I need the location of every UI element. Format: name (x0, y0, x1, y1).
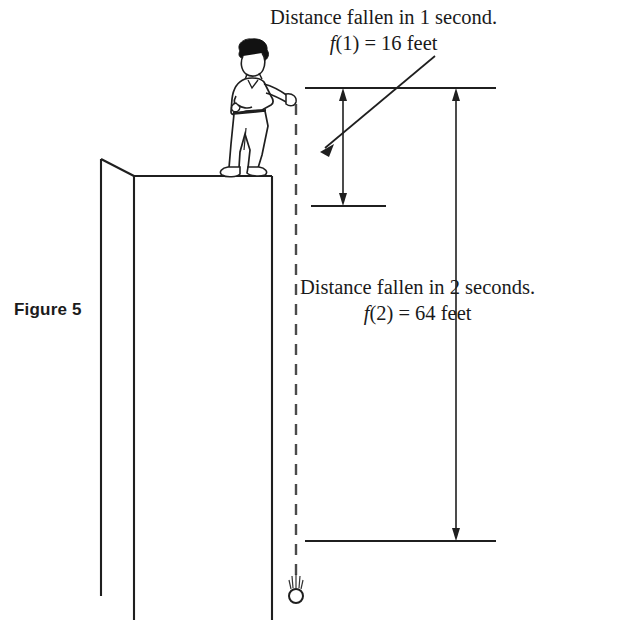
caption-1-equation: (1) = 16 feet (335, 32, 437, 54)
dimension-16-feet (339, 88, 347, 206)
leader-arrow-to-16-feet (320, 56, 435, 157)
dimension-64-arrow-up (452, 88, 460, 101)
hand-right (286, 94, 296, 106)
caption-2-equation: (2) = 64 feet (369, 302, 471, 324)
shoe-left (220, 167, 240, 177)
dimension-64-arrow-down (452, 528, 460, 541)
figure-container: Distance fallen in 1 second. f(1) = 16 f… (0, 0, 621, 639)
motion-streaks (289, 574, 303, 589)
person-figure (220, 39, 296, 177)
shoe-right (247, 167, 267, 176)
falling-ball (289, 574, 303, 603)
dimension-16-arrow-up (339, 88, 347, 101)
caption-distance-1-second: Distance fallen in 1 second. f(1) = 16 f… (270, 4, 497, 56)
caption-2-line-2: f(2) = 64 feet (300, 300, 535, 326)
caption-distance-2-seconds: Distance fallen in 2 seconds. f(2) = 64 … (300, 274, 535, 326)
cliff-top-back-edge (101, 159, 134, 176)
caption-2-line-1: Distance fallen in 2 seconds. (300, 274, 535, 300)
trousers (229, 111, 268, 168)
ball-circle (289, 589, 303, 603)
figure-label: Figure 5 (14, 300, 82, 320)
caption-1-line-2: f(1) = 16 feet (270, 30, 497, 56)
dimension-16-arrow-down (339, 193, 347, 206)
head (241, 53, 264, 76)
cliff-block (101, 159, 272, 620)
caption-1-line-1: Distance fallen in 1 second. (270, 4, 497, 30)
